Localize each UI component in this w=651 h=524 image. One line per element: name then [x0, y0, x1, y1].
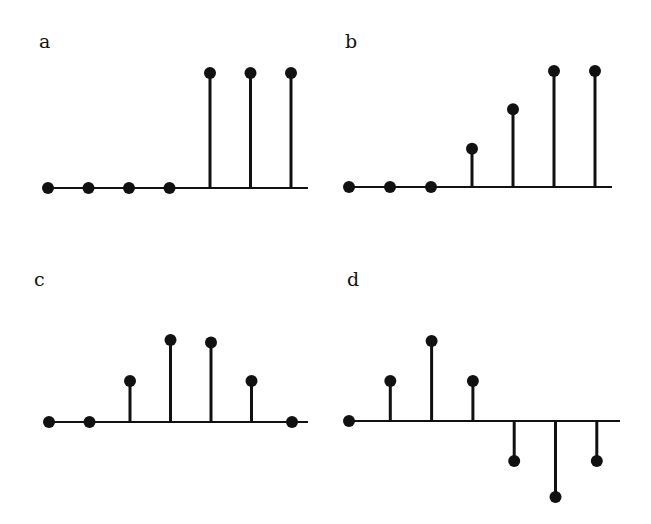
- stem-marker: [507, 103, 519, 115]
- stem-marker: [83, 182, 95, 194]
- stem-marker: [245, 67, 257, 79]
- stem-marker: [466, 143, 478, 155]
- stem-marker: [384, 181, 396, 193]
- stem-plots: [0, 0, 651, 524]
- stem-marker: [343, 181, 355, 193]
- stem-marker: [43, 416, 55, 428]
- stem-marker: [124, 375, 136, 387]
- stem-marker: [467, 375, 479, 387]
- stem-marker: [550, 491, 562, 503]
- stem-marker: [425, 181, 437, 193]
- stem-marker: [164, 182, 176, 194]
- stem-marker: [205, 336, 217, 348]
- stem-marker: [246, 375, 258, 387]
- stem-marker: [589, 65, 601, 77]
- panel-d: [343, 335, 620, 503]
- stem-marker: [123, 182, 135, 194]
- stem-marker: [426, 335, 438, 347]
- stem-marker: [285, 67, 297, 79]
- stem-marker: [286, 416, 298, 428]
- stem-marker: [343, 415, 355, 427]
- stem-marker: [165, 334, 177, 346]
- panel-c: [43, 334, 308, 428]
- panel-a: [42, 67, 308, 194]
- stem-marker: [204, 67, 216, 79]
- stem-marker: [508, 455, 520, 467]
- stem-marker: [591, 455, 603, 467]
- stem-marker: [384, 375, 396, 387]
- stem-marker: [42, 182, 54, 194]
- stem-marker: [548, 65, 560, 77]
- panel-b: [343, 65, 612, 193]
- stem-marker: [84, 416, 96, 428]
